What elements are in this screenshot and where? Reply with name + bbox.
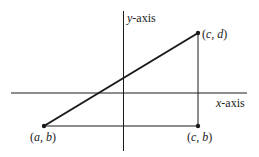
- hypotenuse-segment: [44, 33, 198, 126]
- label-c-d: (c, d): [202, 27, 227, 41]
- label-a-b: (a, b): [30, 130, 56, 144]
- point-c-d: [196, 31, 200, 35]
- coordinate-diagram: y-axis x-axis (c, d) (a, b) (c, b): [0, 0, 259, 157]
- label-c-b: (c, b): [187, 130, 212, 144]
- y-axis-label: y-axis: [126, 11, 156, 25]
- x-axis-label: x-axis: [215, 96, 245, 110]
- point-a-b: [42, 124, 46, 128]
- point-c-b: [196, 124, 200, 128]
